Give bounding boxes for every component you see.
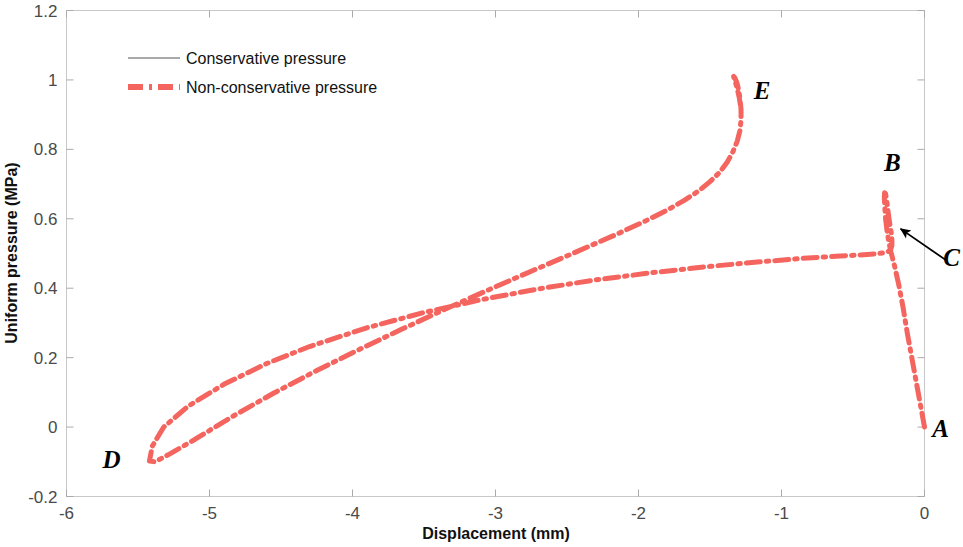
point-label-e: E	[753, 77, 771, 104]
point-label-d: D	[101, 446, 120, 473]
x-axis-tick-labels: -6-5-4-3-2-10	[59, 504, 929, 523]
x-tick-label: -1	[774, 504, 789, 523]
chart-plot: -6-5-4-3-2-10 -0.200.20.40.60.811.2 ABCD…	[0, 0, 963, 547]
y-tick-label: 0.4	[34, 279, 58, 298]
y-tick-label: 0	[48, 418, 57, 437]
x-tick-label: -3	[488, 504, 503, 523]
point-label-a: A	[930, 415, 949, 442]
x-tick-label: -4	[345, 504, 360, 523]
y-tick-label: 0.2	[34, 349, 58, 368]
x-tick-label: 0	[920, 504, 929, 523]
x-tick-label: -2	[631, 504, 646, 523]
point-label-b: B	[883, 149, 901, 176]
x-tick-label: -6	[59, 504, 74, 523]
y-tick-label: 0.6	[34, 210, 58, 229]
y-tick-label: -0.2	[28, 488, 57, 507]
figure-canvas: -6-5-4-3-2-10 -0.200.20.40.60.811.2 ABCD…	[0, 0, 963, 547]
point-label-c: C	[943, 244, 960, 271]
y-axis-tick-labels: -0.200.20.40.60.811.2	[28, 2, 57, 507]
legend-label: Conservative pressure	[186, 50, 346, 67]
y-axis-title: Uniform pressure (MPa)	[3, 162, 20, 343]
y-tick-label: 1	[48, 71, 57, 90]
x-tick-label: -5	[202, 504, 217, 523]
y-tick-label: 0.8	[34, 140, 58, 159]
x-axis-title: Displacement (mm)	[422, 525, 570, 542]
legend-label: Non-conservative pressure	[186, 79, 377, 96]
y-tick-label: 1.2	[34, 2, 58, 21]
